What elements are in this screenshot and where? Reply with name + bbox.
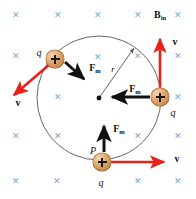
point-p-label: P (90, 145, 96, 156)
charge-label-top-left: q (37, 47, 42, 58)
force-label-top-left: Fm (89, 62, 101, 73)
force-vector-top-left (65, 62, 84, 79)
charge-label-bottom: q (99, 177, 104, 188)
positive-charge-plus-icon (156, 93, 165, 102)
positive-charge-plus-icon (51, 55, 60, 64)
charge-top-left (46, 50, 65, 69)
magnetic-force-diagram: ✕✕✕✕✕✕✕✕✕✕✕✕✕✕✕✕✕✕✕ Bin r P q q q (0, 0, 196, 199)
velocity-label-right: v (173, 36, 178, 47)
positive-charge-plus-icon (98, 158, 107, 167)
charge-label-right: q (171, 107, 176, 118)
force-label-right: Fm (129, 83, 141, 94)
velocity-label-top-left: v (16, 97, 21, 108)
force-label-bottom: Fm (113, 123, 125, 134)
velocity-vector-top-left (14, 64, 50, 95)
circle-center-dot (97, 96, 102, 101)
charge-right (151, 88, 170, 107)
radius-label: r (111, 64, 115, 74)
field-label: Bin (154, 9, 166, 20)
velocity-label-bottom: v (175, 153, 180, 164)
